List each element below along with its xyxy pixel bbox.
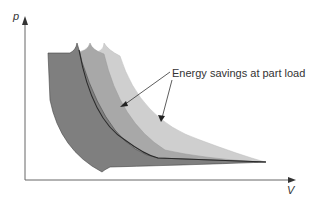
annotation-label: Energy savings at part load — [172, 67, 305, 79]
pv-diagram: p V Energy savings at part load — [0, 0, 310, 203]
y-axis-arrow-icon — [22, 16, 28, 25]
x-axis-label: V — [287, 184, 296, 196]
y-axis-label: p — [12, 10, 19, 22]
x-axis-arrow-icon — [288, 177, 296, 183]
annotation-arrow-2 — [162, 80, 172, 118]
